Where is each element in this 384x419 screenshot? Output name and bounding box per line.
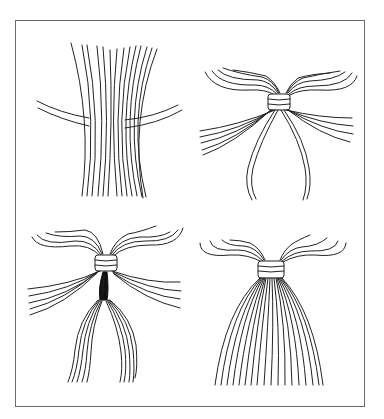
panel-1-strands-over-cord xyxy=(37,43,182,198)
tassel-illustration xyxy=(0,0,384,419)
panel-2-folded-wrapped xyxy=(200,68,357,200)
panel-4-finished-tassel xyxy=(200,235,346,385)
panel-3-threading xyxy=(28,226,183,382)
